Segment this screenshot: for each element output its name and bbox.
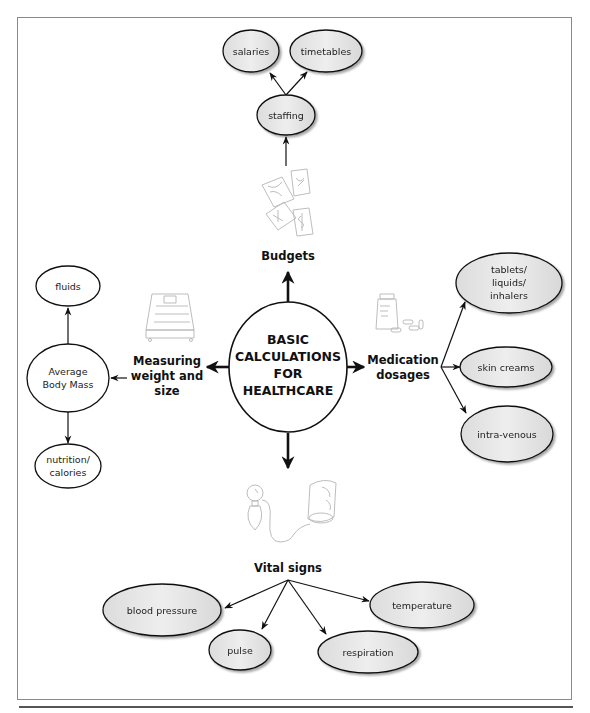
medication-line-2: dosages bbox=[376, 368, 430, 382]
tablets-line-3: inhalers bbox=[490, 290, 528, 301]
measuring-label[interactable]: Measuring weight and size bbox=[131, 354, 203, 398]
intra-venous-label: intra-venous bbox=[477, 429, 537, 440]
medication-label[interactable]: Medication dosages bbox=[367, 353, 439, 382]
measuring-line-2: weight and bbox=[131, 369, 203, 383]
body-mass-line-2: Body Mass bbox=[43, 379, 94, 390]
average-body-mass-node[interactable]: Average Body Mass bbox=[27, 344, 109, 412]
center-line-4: HEALTHCARE bbox=[243, 383, 334, 398]
arrow-vital-to-blood-pressure bbox=[225, 580, 288, 608]
pulse-label: pulse bbox=[227, 645, 253, 656]
staffing-label: staffing bbox=[268, 110, 304, 121]
body-mass-line-1: Average bbox=[48, 366, 87, 377]
timetables-label: timetables bbox=[301, 46, 352, 57]
arrow-medication-to-tablets bbox=[441, 302, 465, 367]
temperature-node[interactable]: temperature bbox=[370, 582, 474, 628]
blood-pressure-node[interactable]: blood pressure bbox=[103, 584, 221, 636]
pulse-node[interactable]: pulse bbox=[209, 630, 271, 670]
blood-pressure-label: blood pressure bbox=[127, 605, 198, 616]
mind-map: BASIC CALCULATIONS FOR HEALTHCARE Budget… bbox=[0, 0, 590, 713]
respiration-label: respiration bbox=[342, 647, 393, 658]
arrow-vital-to-pulse bbox=[262, 580, 288, 629]
skin-creams-node[interactable]: skin creams bbox=[460, 347, 552, 387]
nutrition-line-1: nutrition/ bbox=[46, 454, 91, 465]
salaries-node[interactable]: salaries bbox=[223, 30, 279, 72]
staffing-node[interactable]: staffing bbox=[257, 95, 315, 135]
tablets-liquids-inhalers-node[interactable]: tablets/ liquids/ inhalers bbox=[456, 253, 562, 313]
center-line-2: CALCULATIONS bbox=[235, 349, 341, 364]
center-node[interactable]: BASIC CALCULATIONS FOR HEALTHCARE bbox=[229, 302, 347, 432]
measuring-line-1: Measuring bbox=[133, 354, 201, 368]
medication-line-1: Medication bbox=[367, 353, 439, 367]
center-line-1: BASIC bbox=[267, 332, 309, 347]
temperature-label: temperature bbox=[392, 600, 452, 611]
tablets-line-2: liquids/ bbox=[492, 277, 527, 288]
blood-pressure-monitor-icon bbox=[247, 480, 336, 542]
fluids-label: fluids bbox=[55, 281, 81, 292]
fluids-node[interactable]: fluids bbox=[36, 266, 100, 306]
tablets-line-1: tablets/ bbox=[491, 264, 528, 275]
measuring-line-3: size bbox=[154, 384, 179, 398]
vital-signs-label[interactable]: Vital signs bbox=[254, 561, 322, 575]
center-line-3: FOR bbox=[274, 366, 303, 381]
intra-venous-node[interactable]: intra-venous bbox=[461, 406, 553, 462]
nutrition-calories-node[interactable]: nutrition/ calories bbox=[35, 444, 101, 488]
budgets-label[interactable]: Budgets bbox=[261, 249, 315, 263]
timetables-node[interactable]: timetables bbox=[290, 30, 362, 72]
respiration-node[interactable]: respiration bbox=[318, 631, 418, 673]
pill-bottle-icon bbox=[376, 294, 423, 332]
arrow-staffing-to-salaries bbox=[270, 73, 286, 95]
banknotes-icon bbox=[262, 169, 313, 236]
arrow-staffing-to-timetables bbox=[286, 72, 307, 95]
salaries-label: salaries bbox=[233, 46, 270, 57]
nutrition-line-2: calories bbox=[50, 467, 87, 478]
skin-creams-label: skin creams bbox=[478, 362, 535, 373]
weighing-scale-icon bbox=[146, 294, 194, 342]
